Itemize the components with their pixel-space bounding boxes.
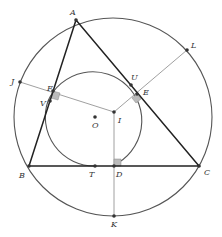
point-L bbox=[185, 48, 189, 52]
perp-line-IJ bbox=[20, 82, 114, 112]
point-B bbox=[27, 164, 31, 168]
perp-line-IL bbox=[114, 50, 187, 112]
label-B: B bbox=[18, 171, 25, 180]
point-E bbox=[135, 92, 139, 96]
point-U bbox=[129, 83, 133, 87]
point-J bbox=[18, 80, 22, 84]
label-D: D bbox=[115, 170, 123, 179]
label-I: I bbox=[117, 116, 122, 125]
inner-circle-arc-lower bbox=[45, 101, 95, 166]
point-K bbox=[112, 214, 116, 218]
point-V bbox=[48, 99, 52, 103]
geometry-diagram: A B C O I J F V U E L T D K bbox=[0, 0, 222, 237]
label-L: L bbox=[190, 41, 196, 50]
label-O: O bbox=[92, 121, 99, 130]
label-T: T bbox=[89, 170, 95, 179]
label-C: C bbox=[204, 168, 210, 177]
label-F: F bbox=[46, 84, 53, 93]
point-A bbox=[74, 18, 78, 22]
label-K: K bbox=[110, 220, 118, 229]
label-A: A bbox=[69, 8, 76, 17]
circumcircle bbox=[14, 18, 212, 216]
label-U: U bbox=[131, 73, 138, 82]
point-O bbox=[93, 115, 97, 119]
point-C bbox=[197, 164, 201, 168]
point-T bbox=[93, 164, 97, 168]
point-D bbox=[112, 164, 116, 168]
label-J: J bbox=[9, 77, 15, 86]
label-E: E bbox=[142, 88, 149, 97]
point-I bbox=[112, 110, 116, 114]
